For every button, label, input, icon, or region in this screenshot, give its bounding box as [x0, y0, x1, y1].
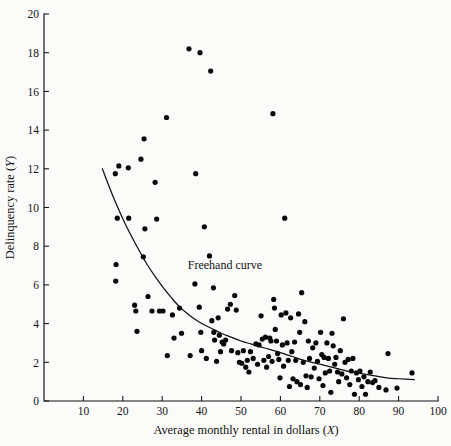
- data-point: [216, 315, 221, 320]
- x-tick-label-100: 100: [429, 405, 447, 417]
- data-point: [270, 111, 275, 116]
- data-point: [232, 293, 237, 298]
- data-point: [283, 310, 288, 315]
- x-tick-label-10: 10: [78, 405, 90, 417]
- data-point: [270, 359, 275, 364]
- data-point: [141, 136, 146, 141]
- x-axis-ticks: 102030405060708090100: [78, 396, 447, 417]
- data-point: [277, 375, 282, 380]
- y-tick-label-16: 16: [28, 86, 40, 98]
- data-point: [248, 349, 253, 354]
- data-point: [272, 306, 277, 311]
- data-point: [126, 165, 131, 170]
- data-point: [327, 368, 332, 373]
- data-point: [299, 290, 304, 295]
- data-point: [145, 294, 150, 299]
- x-tick-label-20: 20: [117, 405, 129, 417]
- data-point: [229, 348, 234, 353]
- data-point: [350, 356, 355, 361]
- x-tick-label-90: 90: [393, 405, 405, 417]
- data-point: [331, 343, 336, 348]
- data-point: [171, 336, 176, 341]
- data-point: [197, 50, 202, 55]
- data-point: [170, 312, 175, 317]
- data-point: [302, 319, 307, 324]
- data-point: [186, 46, 191, 51]
- data-point: [326, 356, 331, 361]
- data-point: [318, 330, 323, 335]
- data-point: [115, 216, 120, 221]
- data-point: [328, 390, 333, 395]
- data-point: [292, 339, 297, 344]
- data-point: [341, 316, 346, 321]
- data-point: [305, 385, 310, 390]
- data-point: [394, 385, 399, 390]
- x-tick-label-80: 80: [353, 405, 365, 417]
- x-axis-title: Average monthly rental in dollars (X): [153, 423, 338, 437]
- freehand-curve: [102, 169, 414, 380]
- data-point: [208, 68, 213, 73]
- data-point: [287, 384, 292, 389]
- data-point: [134, 329, 139, 334]
- data-point: [138, 157, 143, 162]
- data-point: [273, 327, 278, 332]
- data-point: [258, 313, 263, 318]
- data-point: [165, 353, 170, 358]
- data-point: [209, 318, 214, 323]
- x-tick-label-50: 50: [235, 405, 247, 417]
- y-tick-label-2: 2: [33, 357, 39, 369]
- data-point: [197, 305, 202, 310]
- data-point: [316, 376, 321, 381]
- data-point: [312, 366, 317, 371]
- data-point: [282, 216, 287, 221]
- data-point: [346, 357, 351, 362]
- data-point: [368, 369, 373, 374]
- data-point: [268, 338, 273, 343]
- data-point: [234, 307, 239, 312]
- data-point: [324, 340, 329, 345]
- data-point: [263, 335, 268, 340]
- data-point: [339, 371, 344, 376]
- x-tick-label-60: 60: [275, 405, 287, 417]
- data-point: [179, 331, 184, 336]
- data-point: [204, 356, 209, 361]
- data-point: [276, 357, 281, 362]
- data-point: [279, 312, 284, 317]
- data-point: [285, 340, 290, 345]
- freehand-curve-label: Freehand curve: [188, 258, 262, 272]
- data-point: [239, 361, 244, 366]
- data-point: [338, 348, 343, 353]
- y-tick-label-12: 12: [28, 163, 40, 175]
- data-point: [356, 377, 361, 382]
- data-point: [211, 285, 216, 290]
- data-point: [133, 308, 138, 313]
- data-point: [409, 370, 414, 375]
- data-point: [235, 350, 240, 355]
- y-tick-label-6: 6: [33, 279, 39, 291]
- y-tick-label-10: 10: [28, 202, 40, 214]
- data-point: [126, 216, 131, 221]
- data-point: [372, 378, 377, 383]
- data-point: [352, 392, 357, 397]
- data-point: [322, 355, 327, 360]
- data-point: [160, 308, 165, 313]
- data-point: [289, 349, 294, 354]
- data-point: [309, 374, 314, 379]
- x-tick-label-40: 40: [196, 405, 208, 417]
- data-point: [347, 382, 352, 387]
- plot-canvas: 02468101214161820 102030405060708090100 …: [0, 0, 451, 446]
- data-point: [246, 369, 251, 374]
- data-point: [113, 278, 118, 283]
- data-point: [198, 330, 203, 335]
- data-point: [218, 349, 223, 354]
- data-point: [333, 355, 338, 360]
- data-point: [376, 385, 381, 390]
- data-point: [251, 356, 256, 361]
- data-point: [271, 297, 276, 302]
- data-point: [164, 115, 169, 120]
- data-point: [310, 345, 315, 350]
- data-point: [132, 303, 137, 308]
- data-point: [154, 217, 159, 222]
- data-point: [274, 338, 279, 343]
- data-point: [193, 171, 198, 176]
